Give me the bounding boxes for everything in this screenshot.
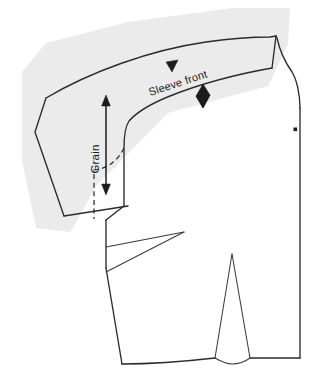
pattern-diagram-root: Sleeve front Grain [0, 0, 319, 385]
bust-point-dot-icon [294, 128, 298, 132]
grain-label: Grain [89, 144, 101, 173]
pattern-drawing-canvas: Sleeve front Grain [0, 0, 319, 385]
